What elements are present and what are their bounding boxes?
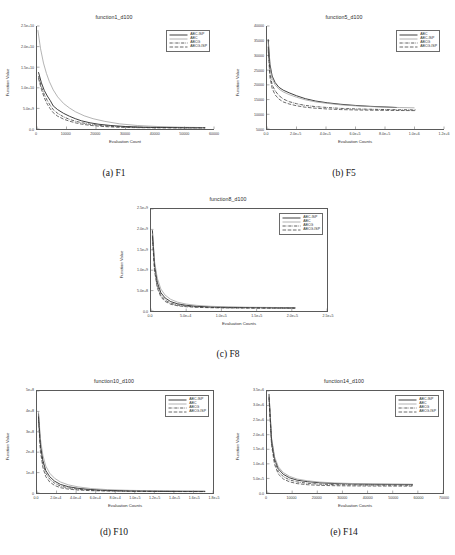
y-tick-f10: 4e+8 <box>8 409 34 413</box>
legend-f10: ABC-ISPABCABCGABCG-ISP <box>165 395 209 417</box>
legend-label: ABCG-ISP <box>190 45 207 49</box>
plot-f1: function1_d100 Function Value 0.05.0e+91… <box>8 14 220 146</box>
y-tick-f1: 1.5e+10 <box>8 66 34 70</box>
x-tick-f8: 1.5e+5 <box>251 314 262 318</box>
x-tick-f8: 5.0e+4 <box>180 314 191 318</box>
chart-panel-f10: function10_d100 Function Value 01e+82e+8… <box>8 378 220 510</box>
y-tick-f10: 0 <box>8 492 34 496</box>
x-tick-f1: 50000 <box>179 132 189 136</box>
legend-item-abcg_isp: ABCG-ISP <box>398 410 436 414</box>
y-tick-f8: 1.0e+9 <box>122 268 148 272</box>
x-tick-f1: 20000 <box>90 132 100 136</box>
x-tick-f1: 40000 <box>150 132 160 136</box>
x-tick-f5: 1.0e+6 <box>409 132 420 136</box>
chart-title-f8: function8_d100 <box>122 196 334 202</box>
series-line-f5-abc <box>268 39 397 107</box>
legend-f14: ABC-ISPABCABCGABCG-ISP <box>395 395 439 417</box>
y-tick-f5: 20000 <box>238 83 264 87</box>
series-line-f14-abcg <box>269 397 413 485</box>
x-tick-f5: 6.0e+5 <box>349 132 360 136</box>
legend-swatch-icon <box>398 410 417 414</box>
series-line-f8-abcg-isp <box>152 238 295 309</box>
x-tick-f14: 60000 <box>414 496 424 500</box>
series-line-f10-abc <box>38 411 205 491</box>
axes-f10: ABC-ISPABCABCGABCG-ISP <box>36 390 214 494</box>
y-tick-f14: 2.0e+6 <box>238 433 264 437</box>
series-line-f14-abcg-isp <box>269 398 413 486</box>
x-tick-f5: 4.0e+5 <box>320 132 331 136</box>
series-line-f14-abc-isp <box>269 394 413 485</box>
legend-item-abcg_isp: ABCG-ISP <box>169 45 207 49</box>
x-tick-f1: 0 <box>35 132 37 136</box>
series-line-f8-abcg <box>152 236 295 309</box>
subfigure-caption-f14: (e) F14 <box>238 527 450 537</box>
x-tick-f10: 1.2e+5 <box>149 496 160 500</box>
legend-label: ABCG-ISP <box>303 228 320 232</box>
chart-title-f5: function5_d100 <box>238 14 450 20</box>
legend-item-abcg_isp: ABCG-ISP <box>399 45 437 49</box>
plot-f8: function8_d100 Function Value 0.05.0e+81… <box>122 196 334 328</box>
x-tick-f10: 2.0e+4 <box>50 496 61 500</box>
legend-swatch-icon <box>168 410 187 414</box>
x-tick-f14: 0 <box>265 496 267 500</box>
y-tick-f5: 30000 <box>238 54 264 58</box>
series-line-f10-abc-isp <box>38 413 205 491</box>
axes-f1: ABC-ISPABCABCGABCG-ISP <box>36 26 214 130</box>
x-tick-f10: 1.6e+5 <box>189 496 200 500</box>
y-tick-f14: 5.0e+5 <box>238 477 264 481</box>
legend-f1: ABC-ISPABCABCGABCG-ISP <box>166 30 210 52</box>
y-tick-f10: 3e+8 <box>8 430 34 434</box>
series-line-f1-abc-isp <box>38 72 205 128</box>
axes-f8: ABC-ISPABCABCGABCG-ISP <box>150 208 328 312</box>
x-axis-label-f5: Evaluation Counts <box>266 139 444 144</box>
y-tick-f1: 0.0 <box>8 128 34 132</box>
chart-panel-f5: function5_d100 Function Value 5000100001… <box>238 14 450 146</box>
figure-page: function1_d100 Function Value 0.05.0e+91… <box>0 0 455 555</box>
y-tick-f1: 2.0e+10 <box>8 45 34 49</box>
y-tick-f5: 5000 <box>238 128 264 132</box>
x-tick-f10: 1.0e+5 <box>129 496 140 500</box>
y-tick-labels-f10: 01e+82e+83e+84e+85e+8 <box>8 378 34 510</box>
y-tick-f1: 2.5e+10 <box>8 24 34 28</box>
series-line-f5-abcg-isp <box>268 50 416 111</box>
legend-label: ABCG-ISP <box>420 45 437 49</box>
y-tick-labels-f1: 0.05.0e+91.0e+101.5e+102.0e+102.5e+10 <box>8 14 34 146</box>
y-tick-f14: 1.5e+6 <box>238 447 264 451</box>
y-tick-f14: 2.5e+6 <box>238 418 264 422</box>
subfigure-caption-f1: (a) F1 <box>8 168 220 178</box>
x-tick-f5: 0.0 <box>264 132 269 136</box>
legend-f5: ABCABC-ISPABCGABCG-ISP <box>396 30 440 52</box>
y-tick-f5: 25000 <box>238 69 264 73</box>
subfigure-caption-f10: (d) F10 <box>8 527 220 537</box>
series-line-f14-abc <box>269 395 413 484</box>
legend-label: ABCG-ISP <box>189 410 206 414</box>
x-axis-label-f14: Evaluation Counts <box>266 503 444 508</box>
y-tick-f8: 2.0e+9 <box>122 227 148 231</box>
chart-title-f1: function1_d100 <box>8 14 220 20</box>
subfigure-caption-f5: (b) F5 <box>238 168 450 178</box>
y-tick-f1: 1.0e+10 <box>8 86 34 90</box>
x-tick-f14: 70000 <box>439 496 449 500</box>
plot-f10: function10_d100 Function Value 01e+82e+8… <box>8 378 220 510</box>
series-line-f5-abcg <box>268 47 416 110</box>
y-tick-f5: 15000 <box>238 98 264 102</box>
y-tick-f14: 0.0 <box>238 492 264 496</box>
x-tick-f8: 0.0 <box>148 314 153 318</box>
x-tick-f1: 60000 <box>209 132 219 136</box>
x-tick-f5: 2.0e+5 <box>290 132 301 136</box>
y-tick-f10: 2e+8 <box>8 450 34 454</box>
x-tick-f14: 40000 <box>363 496 373 500</box>
y-tick-f5: 40000 <box>238 24 264 28</box>
legend-label: ABCG-ISP <box>419 410 436 414</box>
y-tick-f1: 5.0e+9 <box>8 107 34 111</box>
x-tick-f1: 30000 <box>120 132 130 136</box>
legend-swatch-icon <box>169 45 188 49</box>
x-tick-f5: 8.0e+5 <box>379 132 390 136</box>
x-tick-f14: 10000 <box>286 496 296 500</box>
series-line-f8-abc <box>152 233 295 307</box>
x-tick-f14: 30000 <box>337 496 347 500</box>
x-axis-label-f1: Evaluation Count <box>36 139 214 144</box>
series-line-f8-abc-isp <box>152 230 295 308</box>
x-tick-f10: 0.0 <box>34 496 39 500</box>
series-line-f10-abcg <box>38 417 205 492</box>
